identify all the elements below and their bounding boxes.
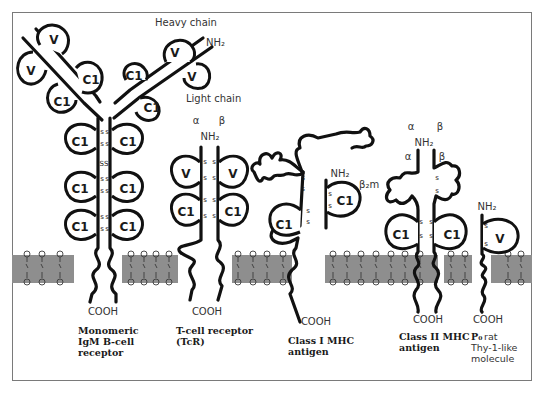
svg-text:s: s: [212, 196, 216, 204]
domain-label-c1: C1: [71, 182, 88, 196]
cell-membrane: [12, 251, 532, 285]
caption-p0-line3: molecule: [471, 353, 514, 364]
nh2-label: NH₂: [477, 201, 496, 212]
beta2-microglobulin-label: β₂m: [359, 179, 379, 190]
svg-text:s: s: [105, 213, 109, 221]
nh2-label: NH₂: [330, 168, 349, 179]
cooh-label: COOH: [413, 314, 443, 325]
heavy-chain-label: Heavy chain: [155, 17, 217, 28]
disulfide-bonds: ssss ssss ssss: [100, 128, 109, 233]
svg-text:s: s: [100, 140, 104, 148]
caption-mhc2-line1: Class II MHC: [399, 331, 470, 342]
beta-label: β: [439, 151, 445, 162]
cooh-label: COOH: [88, 306, 118, 317]
nh2-label: NH₂: [414, 137, 433, 148]
domain-label-c1: C1: [119, 220, 136, 234]
svg-text:s: s: [212, 174, 216, 182]
svg-text:s: s: [306, 218, 310, 226]
disulfide-bonds: ssss ssss: [203, 158, 216, 220]
svg-text:s: s: [105, 225, 109, 233]
alpha-label: α: [408, 121, 415, 132]
domain-label-c1: C1: [71, 135, 88, 149]
cooh-label: COOH: [473, 314, 503, 325]
svg-text:s: s: [435, 187, 439, 195]
t-cell-receptor: α β NH₂ V V C1 C1 ssss ssss COOH T-cell …: [171, 115, 254, 347]
domain-label-c1: C1: [125, 69, 142, 83]
svg-text:s: s: [484, 240, 488, 248]
igm-b-cell-receptor: V V C1 C1 V V C1 C1 C1 C1 C1 C1 C1 C1 SS…: [18, 25, 212, 358]
svg-text:s: s: [212, 158, 216, 166]
caption-p0-line2: Thy-1-like: [470, 342, 518, 353]
domain-label-v: V: [495, 232, 505, 246]
svg-text:s: s: [105, 140, 109, 148]
svg-text:s: s: [105, 128, 109, 136]
caption-mhc2-line2: antigen: [399, 342, 440, 353]
svg-text:s: s: [100, 175, 104, 183]
domain-label-c1: C1: [71, 220, 88, 234]
svg-text:s: s: [100, 213, 104, 221]
domain-label-c1: C1: [143, 101, 160, 115]
svg-text:s: s: [328, 190, 332, 198]
beta-label: β: [219, 115, 225, 126]
svg-text:s: s: [105, 175, 109, 183]
cooh-label: COOH: [192, 306, 222, 317]
domain-label-v: V: [228, 167, 238, 181]
caption-igm-line1: Monomeric: [78, 325, 139, 336]
svg-text:s: s: [301, 185, 305, 193]
svg-text:s: s: [301, 174, 305, 182]
disulfide-bond-label: SS: [100, 160, 109, 168]
caption-igm-line2: IgM B-cell: [78, 336, 134, 347]
domain-label-c1: C1: [119, 135, 136, 149]
svg-text:s: s: [212, 212, 216, 220]
caption-mhc1-line1: Class I MHC: [288, 335, 355, 346]
svg-text:s: s: [203, 196, 207, 204]
caption-tcr-line2: (TcR): [176, 336, 205, 347]
cooh-label: COOH: [301, 316, 331, 327]
caption-p0-line1: rat: [484, 331, 498, 342]
svg-text:s: s: [429, 218, 433, 226]
light-chain-label: Light chain: [186, 93, 241, 104]
svg-text:s: s: [105, 187, 109, 195]
nh2-label: NH₂: [200, 131, 219, 142]
domain-label-v: V: [170, 46, 180, 60]
svg-text:s: s: [435, 174, 439, 182]
domain-label-c1: C1: [53, 95, 70, 109]
alpha-label: α: [405, 151, 412, 162]
svg-text:s: s: [100, 187, 104, 195]
nh2-label: NH₂: [206, 37, 225, 48]
domain-label-c1: C1: [119, 182, 136, 196]
domain-label-v: V: [49, 33, 59, 47]
svg-text:s: s: [100, 225, 104, 233]
domain-label-v: V: [26, 64, 36, 78]
svg-text:s: s: [100, 128, 104, 136]
svg-text:s: s: [306, 207, 310, 215]
svg-text:s: s: [419, 218, 423, 226]
alpha-label: α: [193, 115, 200, 126]
ig-superfamily-diagram: V V C1 C1 V V C1 C1 C1 C1 C1 C1 C1 C1 SS…: [0, 0, 542, 396]
domain-label-v: V: [187, 70, 197, 84]
caption-mhc1-line2: antigen: [288, 346, 329, 357]
svg-text:s: s: [203, 212, 207, 220]
svg-text:s: s: [203, 174, 207, 182]
svg-text:s: s: [429, 232, 433, 240]
caption-p0-bold: P₀: [471, 331, 482, 342]
domain-label-c1: C1: [392, 228, 409, 242]
caption-tcr-line1: T-cell receptor: [176, 325, 254, 336]
domain-label-c1: C1: [275, 218, 292, 232]
domain-label-c1: C1: [443, 228, 460, 242]
domain-label-c1: C1: [82, 73, 99, 87]
class-ii-mhc-antigen: α β NH₂ α β C1 C1 ss ssss COOH Class II …: [386, 121, 470, 353]
svg-text:s: s: [419, 232, 423, 240]
domain-label-v: V: [181, 167, 191, 181]
caption-igm-line3: receptor: [78, 347, 124, 358]
svg-text:s: s: [328, 202, 332, 210]
svg-text:s: s: [203, 158, 207, 166]
domain-label-c1: C1: [336, 194, 353, 208]
svg-text:s: s: [484, 222, 488, 230]
domain-label-c1: C1: [177, 205, 194, 219]
beta-label: β: [437, 121, 443, 132]
class-i-mhc-antigen: C1 ss ss NH₂ C1 β₂m ss COOH Class I MHC …: [252, 129, 379, 357]
domain-label-c1: C1: [224, 205, 241, 219]
